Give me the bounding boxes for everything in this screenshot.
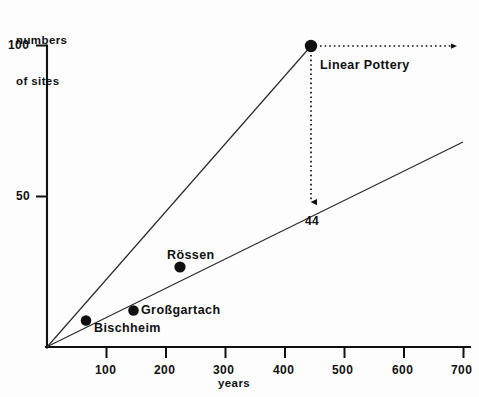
data-label-linear-pottery: Linear Pottery — [320, 58, 410, 72]
y-axis-title: numbers of sites — [16, 7, 67, 115]
y-tick-label-100: 100 — [8, 38, 29, 52]
data-label-grossgartach: Großgartach — [141, 303, 220, 317]
data-point-bischheim — [81, 315, 92, 326]
trend-line-upper — [48, 46, 312, 347]
x-tick-label-400: 400 — [273, 363, 294, 377]
data-point-linear-pottery — [305, 40, 317, 52]
x-axis-title: years — [218, 377, 250, 391]
trend-line-lower — [48, 142, 464, 347]
y-tick-label-50: 50 — [16, 189, 30, 203]
data-label-roessen: Rössen — [167, 248, 215, 262]
y-axis-title-line2: of sites — [16, 75, 67, 89]
chart-figure: numbers of sites 100 50 100 200 300 400 … — [0, 0, 479, 397]
x-tick-label-300: 300 — [213, 363, 234, 377]
data-label-bischheim: Bischheim — [94, 321, 161, 335]
x-tick-label-100: 100 — [95, 363, 116, 377]
data-point-grossgartach — [128, 305, 139, 316]
data-point-roessen — [174, 261, 185, 272]
x-tick-label-200: 200 — [154, 363, 175, 377]
x-tick-label-700: 700 — [451, 363, 472, 377]
x-tick-label-600: 600 — [392, 363, 413, 377]
x-tick-label-500: 500 — [332, 363, 353, 377]
annotation-label-44: 44 — [305, 214, 319, 228]
